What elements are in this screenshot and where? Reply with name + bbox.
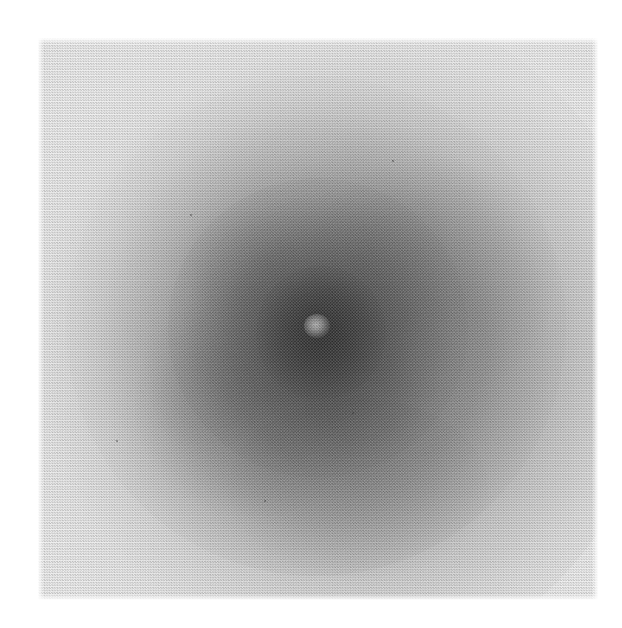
grain-mottle-layer	[38, 38, 598, 600]
bright-nucleus-knot	[304, 314, 330, 338]
outer-halo-layer	[38, 38, 598, 600]
plate-speck	[190, 214, 192, 216]
plate-edge-feather	[38, 38, 598, 600]
inner-envelope-layer	[168, 178, 468, 478]
plate-speck	[116, 440, 118, 442]
lobe-northeast-layer	[306, 158, 556, 398]
plate-speck	[264, 500, 266, 502]
lobe-southwest-layer	[134, 288, 374, 518]
film-grain-layer	[38, 38, 598, 600]
lobe-south-layer	[228, 398, 488, 578]
mid-envelope-layer	[66, 76, 566, 576]
plate-speck	[352, 412, 354, 414]
halftone-screen-layer-b	[38, 38, 598, 600]
page-canvas	[0, 0, 622, 628]
dark-core-layer	[256, 266, 386, 400]
halftone-screen-layer	[38, 38, 598, 600]
plate-speck	[392, 160, 394, 162]
photographic-plate	[38, 38, 598, 600]
